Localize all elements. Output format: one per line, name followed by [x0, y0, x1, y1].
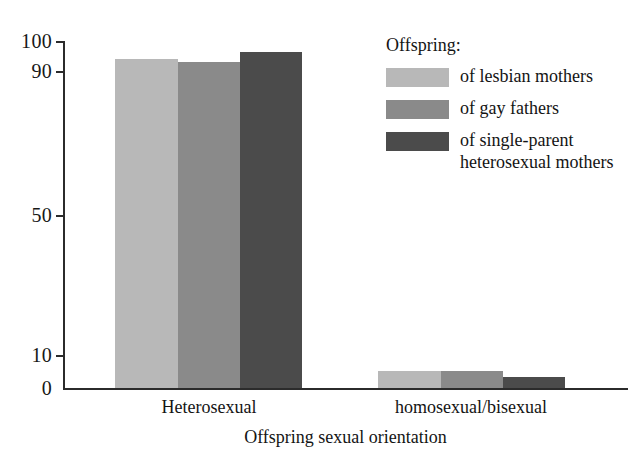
legend-item-single-parent-heterosexual-mothers[interactable]: of single-parent heterosexual mothers [386, 129, 636, 173]
y-tick-label-0: 0 [6, 378, 52, 398]
y-tick-group-100: 100 [0, 31, 52, 51]
bar-homosexual-bisexual-lesbian-mothers[interactable] [378, 371, 441, 388]
y-tick-label-10: 10 [6, 345, 52, 365]
y-tick-mark-90 [56, 71, 65, 73]
y-tick-label-100: 100 [6, 31, 52, 51]
legend-label-single-parent-heterosexual-mothers: of single-parent heterosexual mothers [460, 129, 636, 173]
y-tick-label-50: 50 [6, 205, 52, 225]
y-tick-group-90: 90 [0, 61, 52, 81]
bar-homosexual-bisexual-single-parent-heterosexual-mothers[interactable] [503, 377, 565, 388]
y-tick-group-50: 50 [0, 205, 52, 225]
y-tick-group-0: 0 [0, 378, 52, 398]
x-category-label-heterosexual: Heterosexual [108, 396, 310, 418]
legend-label-gay-fathers: of gay fathers [460, 97, 559, 119]
legend-item-gay-fathers[interactable]: of gay fathers [386, 97, 636, 119]
legend-swatch-gay-fathers [386, 100, 449, 119]
bar-heterosexual-lesbian-mothers[interactable] [115, 59, 178, 388]
y-tick-mark-50 [56, 215, 65, 217]
legend-label-lesbian-mothers: of lesbian mothers [460, 65, 593, 87]
bar-heterosexual-single-parent-heterosexual-mothers[interactable] [240, 52, 302, 388]
y-tick-group-10: 10 [0, 345, 52, 365]
bar-heterosexual-gay-fathers[interactable] [178, 62, 240, 388]
x-axis-line [63, 388, 628, 390]
legend-item-lesbian-mothers[interactable]: of lesbian mothers [386, 65, 636, 87]
legend-title: Offspring: [386, 34, 636, 56]
y-tick-mark-10 [56, 355, 65, 357]
x-category-label-homosexual-bisexual: homosexual/bisexual [370, 396, 572, 418]
bar-chart: 100 90 50 10 0 Heterosexual homosexual/b… [0, 0, 642, 458]
y-tick-label-90: 90 [6, 61, 52, 81]
y-tick-mark-100 [56, 41, 65, 43]
legend-swatch-single-parent-heterosexual-mothers [386, 132, 449, 151]
bar-homosexual-bisexual-gay-fathers[interactable] [441, 371, 503, 388]
legend-swatch-lesbian-mothers [386, 68, 449, 87]
x-axis-title: Offspring sexual orientation [63, 426, 628, 448]
legend: Offspring: of lesbian mothers of gay fat… [386, 34, 636, 183]
